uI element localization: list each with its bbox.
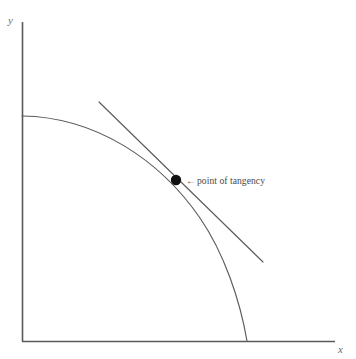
y-axis-label: y — [7, 14, 13, 26]
x-axis-label: x — [337, 343, 343, 355]
tangency-annotation-label: point of tangency — [197, 175, 265, 186]
tangency-point-marker — [171, 175, 181, 185]
tangency-figure: y x ← point of tangency — [0, 0, 356, 359]
figure-canvas: y x ← point of tangency — [0, 0, 356, 359]
left-arrow-icon: ← — [186, 175, 196, 186]
concave-curve — [22, 116, 247, 341]
